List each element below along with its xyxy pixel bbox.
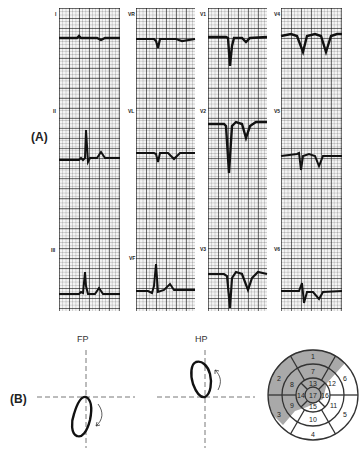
segment-17: 17 [309, 392, 317, 399]
segment-1: 1 [311, 353, 315, 360]
panel-a-label: (A) [31, 130, 48, 144]
lead-label-V2: V2 [200, 108, 206, 114]
ecg-strip-col4 [281, 8, 342, 311]
lead-label-V6: V6 [274, 246, 280, 252]
fp-vector-loop [72, 397, 91, 436]
segment-15: 15 [309, 403, 317, 410]
segment-8: 8 [290, 381, 294, 388]
lead-label-V3: V3 [200, 246, 206, 252]
hp-vector-loop [191, 362, 211, 397]
lead-label-V5: V5 [274, 108, 280, 114]
segment-6: 6 [343, 375, 347, 382]
lead-label-VR: VR [128, 11, 135, 17]
ecg-trace-col3 [208, 8, 267, 311]
lead-label-VL: VL [128, 108, 134, 114]
bullseye-17-segment-map: 1 6 5 4 3 2 7 12 11 10 9 8 13 16 15 14 1… [265, 348, 361, 444]
lead-label-VF: VF [129, 255, 135, 261]
segment-2: 2 [277, 375, 281, 382]
lead-label-II: II [53, 108, 56, 114]
segment-7: 7 [311, 368, 315, 375]
segment-13: 13 [309, 380, 317, 387]
lead-label-V4: V4 [274, 11, 280, 17]
lead-label-I: I [55, 11, 56, 17]
segment-11: 11 [330, 402, 337, 409]
ecg-strip-col1 [59, 8, 120, 311]
segment-5: 5 [343, 411, 347, 418]
ecg-strip-col3 [208, 8, 267, 311]
segment-12: 12 [328, 380, 336, 387]
vector-loops [0, 330, 265, 459]
ecg-strip-col2 [136, 8, 195, 311]
ecg-trace-col2 [136, 8, 195, 311]
segment-3: 3 [277, 411, 281, 418]
ecg-trace-col4 [281, 8, 342, 311]
segment-4: 4 [311, 431, 315, 438]
ecg-trace-col1 [59, 8, 120, 311]
lead-label-V1: V1 [200, 11, 206, 17]
lead-label-III: III [51, 247, 55, 253]
segment-10: 10 [309, 416, 317, 423]
hp-rotation-arrow [215, 370, 220, 390]
segment-16: 16 [321, 392, 329, 399]
segment-9: 9 [290, 402, 294, 409]
segment-14: 14 [297, 392, 305, 399]
